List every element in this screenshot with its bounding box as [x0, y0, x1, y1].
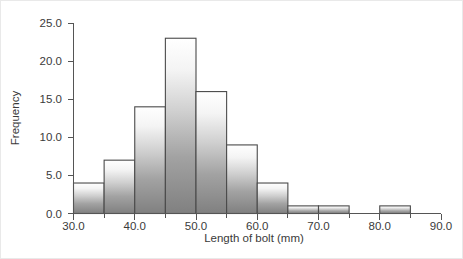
x-tick-label: 40.0 — [124, 220, 146, 232]
x-axis-title: Length of bolt (mm) — [204, 232, 304, 244]
bars-group — [74, 38, 411, 213]
y-axis-title: Frequency — [9, 91, 21, 146]
x-tick-label: 90.0 — [430, 220, 452, 232]
x-tick-label: 30.0 — [62, 220, 84, 232]
histogram-bar — [227, 145, 258, 214]
y-tick-label: 15.0 — [40, 93, 62, 105]
y-ticks-group: 0.05.010.015.020.025.0 — [40, 17, 74, 220]
histogram-bar — [257, 183, 288, 213]
histogram-bar — [74, 183, 105, 213]
histogram-figure: 0.05.010.015.020.025.0 30.040.050.060.07… — [0, 0, 463, 259]
x-tick-label: 60.0 — [246, 220, 268, 232]
y-tick-label: 5.0 — [46, 169, 62, 181]
y-tick-label: 10.0 — [40, 131, 62, 143]
y-tick-label: 0.0 — [46, 208, 62, 220]
histogram-bar — [380, 206, 411, 214]
x-ticks-group: 30.040.050.060.070.080.090.0 — [62, 214, 452, 233]
x-tick-label: 50.0 — [185, 220, 207, 232]
histogram-svg: 0.05.010.015.020.025.0 30.040.050.060.07… — [1, 1, 463, 259]
histogram-bar — [135, 107, 166, 214]
histogram-bar — [319, 206, 350, 214]
histogram-bar — [196, 92, 227, 214]
x-tick-label: 80.0 — [369, 220, 391, 232]
x-tick-label: 70.0 — [307, 220, 329, 232]
y-tick-label: 25.0 — [40, 17, 62, 29]
histogram-bar — [104, 160, 135, 213]
histogram-bar — [288, 206, 319, 214]
y-tick-label: 20.0 — [40, 55, 62, 67]
histogram-bar — [165, 38, 196, 213]
